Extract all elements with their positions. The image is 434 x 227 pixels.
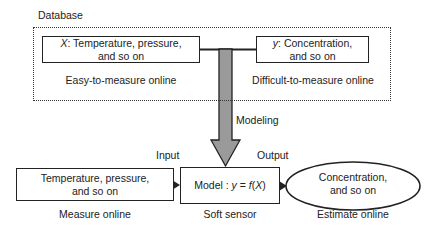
output-label: Output	[257, 149, 289, 162]
y-box-line1: : Concentration,	[278, 37, 352, 49]
output-line2: and so on	[286, 184, 420, 197]
formula-close: )	[262, 179, 266, 191]
model-box: Model : y = f(X)	[180, 167, 280, 204]
x-variable-box: X: Temperature, pressure, and so on	[42, 36, 200, 63]
formula-eq: =	[237, 179, 249, 191]
input-label: Input	[156, 149, 179, 162]
model-caption: Soft sensor	[180, 208, 280, 221]
output-line1: Concentration,	[286, 171, 420, 184]
y-variable-box: y: Concentration, and so on	[256, 36, 369, 63]
x-caption: Easy-to-measure online	[42, 74, 200, 87]
model-formula: Model : y = f(X)	[194, 179, 266, 192]
y-caption: Difficult-to-measure online	[250, 74, 376, 87]
input-box: Temperature, pressure, and so on	[16, 168, 174, 201]
x-box-line1: : Temperature, pressure,	[67, 37, 181, 49]
x-box-line2: and so on	[98, 50, 144, 63]
output-ellipse: Concentration, and so on	[286, 171, 420, 197]
input-box-line2: and so on	[72, 185, 118, 198]
modeling-label: Modeling	[236, 114, 279, 127]
y-box-line2: and so on	[289, 50, 335, 63]
database-label: Database	[38, 9, 83, 22]
output-caption: Estimate online	[286, 208, 420, 221]
input-box-line1: Temperature, pressure,	[41, 172, 150, 185]
model-prefix: Model :	[194, 179, 231, 191]
input-caption: Measure online	[16, 208, 174, 221]
